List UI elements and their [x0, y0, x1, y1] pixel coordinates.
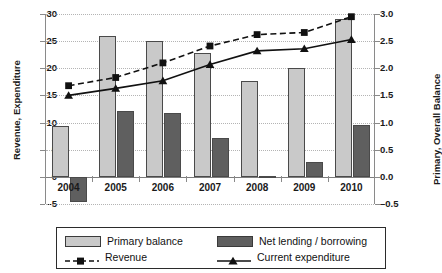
legend-dashed-line-square-marker-icon [65, 252, 99, 262]
tick-mark [375, 14, 380, 15]
marker-square-2010 [348, 13, 355, 20]
legend-label: Current expenditure [257, 251, 350, 263]
chart-legend: Primary balance Net lending / borrowing … [56, 227, 386, 269]
tick-mark [375, 95, 380, 96]
tick-mark [375, 41, 380, 42]
tick-mark [375, 204, 380, 205]
y-axis-right-title: Primary, Overall Balance [431, 74, 442, 185]
legend-row: Primary balance Net lending / borrowing [65, 233, 377, 249]
x-tick-mark [234, 176, 235, 182]
y-axis-left-title: Revenue, Expenditure [11, 60, 22, 160]
legend-item-revenue: Revenue [65, 249, 217, 265]
marker-triangle-2010 [347, 35, 356, 43]
marker-square-2009 [301, 29, 308, 36]
legend-item-primary-balance: Primary balance [65, 233, 217, 249]
x-axis-tick-label-2006: 2006 [138, 182, 188, 193]
tick-mark [375, 177, 380, 178]
legend-item-current-expenditure: Current expenditure [217, 249, 350, 265]
y-axis-right-tick-label: 0.5 [380, 145, 393, 155]
marker-square-2008 [254, 31, 261, 38]
legend-label: Net lending / borrowing [259, 235, 367, 247]
legend-solid-line-triangle-marker-icon [217, 252, 251, 262]
line-revenue [69, 17, 352, 86]
x-axis-tick-label-2010: 2010 [326, 182, 376, 193]
marker-square-2005 [112, 74, 119, 81]
x-tick-mark [139, 176, 140, 182]
x-tick-mark [92, 176, 93, 182]
tick-mark [375, 68, 380, 69]
y-axis-right-tick-label: 3.0 [380, 9, 393, 19]
legend-item-net-lending: Net lending / borrowing [217, 233, 367, 249]
legend-label: Revenue [105, 251, 147, 263]
x-axis-tick-label-2009: 2009 [279, 182, 329, 193]
x-axis-tick-label-2005: 2005 [91, 182, 141, 193]
legend-label: Primary balance [107, 235, 183, 247]
y-axis-right-tick-label: –0.5 [380, 199, 399, 209]
y-axis-right-tick-label: 2.0 [380, 63, 393, 73]
line-series-layer [45, 14, 375, 204]
legend-row: Revenue Current expenditure [65, 249, 377, 265]
gridline [46, 204, 374, 205]
x-axis-tick-label-2008: 2008 [232, 182, 282, 193]
legend-swatch-primary-balance-icon [65, 236, 101, 247]
marker-square-2006 [160, 60, 167, 67]
legend-swatch-net-lending-icon [217, 236, 253, 247]
y-axis-right-tick-label: 1.0 [380, 118, 393, 128]
x-tick-mark [186, 176, 187, 182]
x-tick-mark [281, 176, 282, 182]
tick-mark [375, 150, 380, 151]
x-tick-mark [328, 176, 329, 182]
tick-mark [40, 204, 45, 205]
x-axis-tick-label-2004: 2004 [44, 182, 94, 193]
marker-square-2004 [65, 82, 72, 89]
y-axis-right-tick-label: 1.5 [380, 90, 393, 100]
marker-square-2007 [207, 43, 214, 50]
y-axis-right-tick-label: 2.5 [380, 36, 393, 46]
tick-mark [375, 123, 380, 124]
y-axis-right-tick-label: 0.0 [380, 172, 393, 182]
x-axis-tick-label-2007: 2007 [185, 182, 235, 193]
